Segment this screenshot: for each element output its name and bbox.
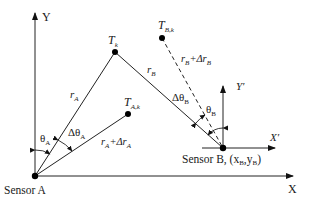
target-tak-point xyxy=(125,111,131,117)
sensor-geometry-diagram: Y X Y′ X′ Tk TA,k TB,k rA rB rA+ΔrA rB+Δ… xyxy=(0,0,309,204)
target-tbk-point xyxy=(159,35,165,41)
range-a-label: rA xyxy=(70,88,79,103)
target-tk-point xyxy=(112,49,118,55)
theta-b-arc xyxy=(208,128,223,135)
target-tbk-label: TB,k xyxy=(158,18,175,34)
delta-theta-b-label: ΔθB xyxy=(172,91,189,106)
global-x-label: X xyxy=(288,182,297,196)
global-y-label: Y xyxy=(42,10,51,24)
theta-a-label: θA xyxy=(40,132,50,147)
target-tk-label: Tk xyxy=(108,33,119,49)
theta-a-arc xyxy=(35,150,50,154)
range-a-delta-label: rA+ΔrA xyxy=(101,136,132,150)
sensor-a-point xyxy=(32,173,38,179)
delta-theta-a-label: ΔθA xyxy=(68,126,85,141)
range-b-label: rB xyxy=(147,63,156,78)
delta-theta-a-arc xyxy=(58,140,72,151)
theta-b-label: θB xyxy=(206,103,216,118)
sensor-b-point xyxy=(220,145,226,151)
range-line-a xyxy=(35,52,115,176)
sensor-a-label: Sensor A xyxy=(4,184,47,196)
range-b-delta-label: rB+ΔrB xyxy=(181,53,212,67)
local-y-label: Y′ xyxy=(236,80,245,92)
target-tak-label: TA,k xyxy=(124,95,141,111)
local-x-label: X′ xyxy=(269,131,280,143)
sensor-b-label: Sensor B, (xB,yB) xyxy=(182,153,261,167)
delta-theta-b-arc xyxy=(196,115,205,123)
